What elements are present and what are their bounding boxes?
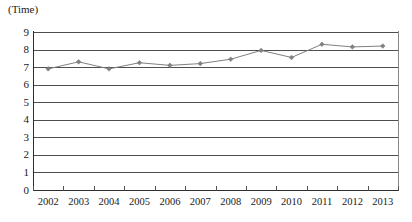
x-tick-mark <box>33 186 34 191</box>
y-tick-label-2: 2 <box>5 149 29 160</box>
x-tick-label-2006: 2006 <box>153 196 187 208</box>
x-tick-mark <box>246 186 247 191</box>
y-tick-label-7: 7 <box>5 62 29 73</box>
x-tick-label-2003: 2003 <box>62 196 96 208</box>
gridline-7 <box>33 67 398 68</box>
x-tick-mark <box>398 186 399 191</box>
gridline-1 <box>33 172 398 173</box>
y-tick-label-4: 4 <box>5 114 29 125</box>
plot-right-border <box>398 31 399 191</box>
x-tick-mark <box>216 186 217 191</box>
gridline-3 <box>33 137 398 138</box>
y-tick-label-3: 3 <box>5 132 29 143</box>
x-tick-label-2005: 2005 <box>122 196 156 208</box>
x-tick-label-2008: 2008 <box>214 196 248 208</box>
x-tick-mark <box>307 186 308 191</box>
x-tick-label-2012: 2012 <box>335 196 369 208</box>
y-tick-label-5: 5 <box>5 97 29 108</box>
y-axis-line <box>33 31 34 191</box>
gridline-8 <box>33 50 398 51</box>
x-tick-mark <box>368 186 369 191</box>
y-tick-label-8: 8 <box>5 44 29 55</box>
x-tick-mark <box>276 186 277 191</box>
line-chart: (Time) 9876543210 2002200320042005200620… <box>0 0 412 222</box>
x-tick-label-2002: 2002 <box>31 196 65 208</box>
gridline-9 <box>33 32 398 33</box>
gridline-5 <box>33 102 398 103</box>
y-tick-label-9: 9 <box>5 27 29 38</box>
x-tick-mark <box>337 186 338 191</box>
y-axis-tick-labels: 9876543210 <box>0 0 29 222</box>
y-tick-label-6: 6 <box>5 79 29 90</box>
x-tick-label-2004: 2004 <box>92 196 126 208</box>
x-tick-mark <box>185 186 186 191</box>
gridline-4 <box>33 120 398 121</box>
x-tick-label-2013: 2013 <box>366 196 400 208</box>
y-tick-label-1: 1 <box>5 167 29 178</box>
gridline-2 <box>33 155 398 156</box>
x-tick-mark <box>124 186 125 191</box>
x-tick-label-2011: 2011 <box>305 196 339 208</box>
x-tick-mark <box>94 186 95 191</box>
x-tick-label-2009: 2009 <box>244 196 278 208</box>
x-tick-label-2010: 2010 <box>275 196 309 208</box>
plot-area <box>33 32 398 190</box>
x-tick-mark <box>155 186 156 191</box>
y-tick-label-0: 0 <box>5 185 29 196</box>
gridline-6 <box>33 85 398 86</box>
x-tick-mark <box>63 186 64 191</box>
x-tick-label-2007: 2007 <box>183 196 217 208</box>
